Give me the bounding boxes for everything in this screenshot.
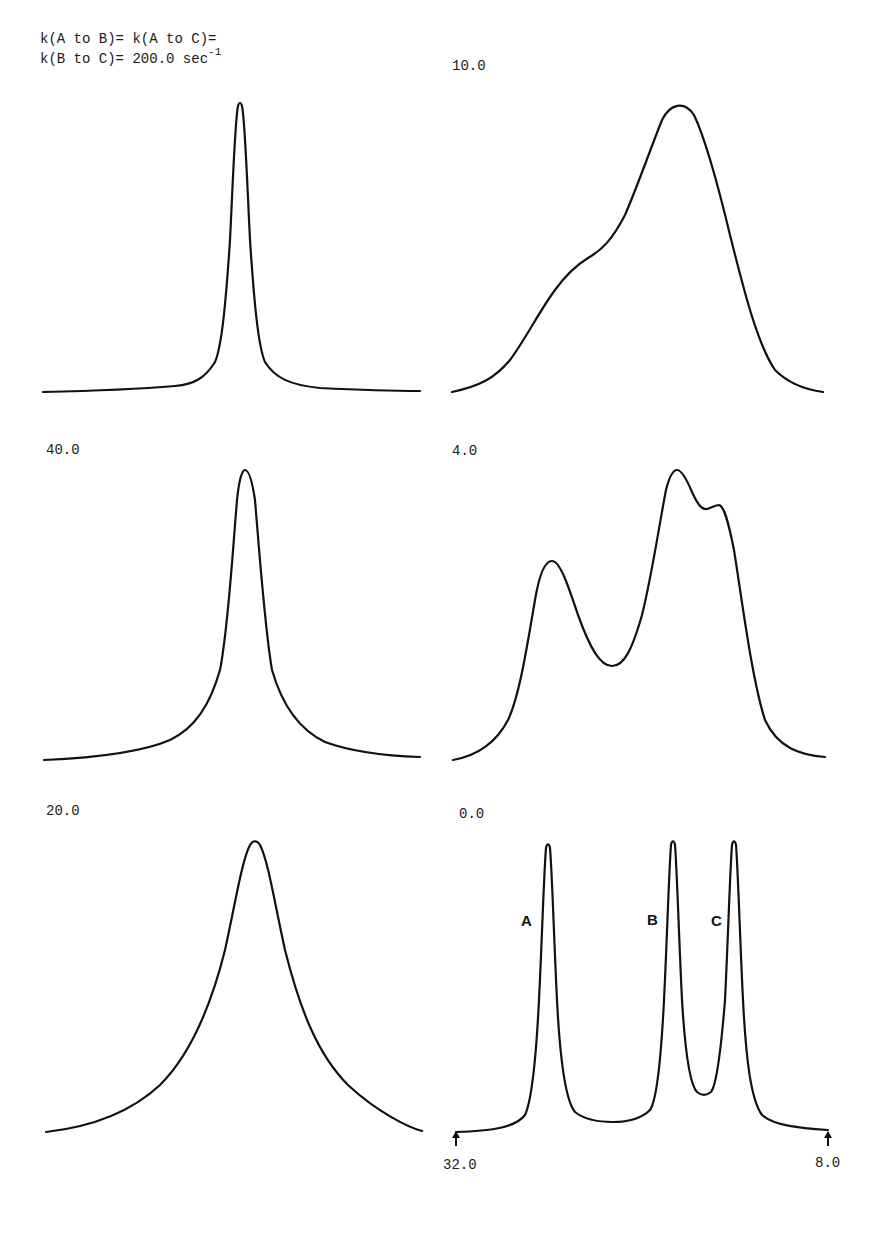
- spectrum-curve-0: [456, 841, 828, 1132]
- peak-label-b: B: [647, 911, 658, 928]
- spectrum-curve-4: [453, 470, 825, 760]
- spectrum-curve-40: [44, 470, 420, 760]
- peak-label-c: C: [711, 912, 722, 929]
- axis-right-arrow-icon: [824, 1131, 832, 1146]
- peak-label-a: A: [521, 912, 532, 929]
- spectra-plot-area: [0, 0, 889, 1233]
- spectrum-curve-200: [43, 103, 420, 392]
- axis-right-label: 8.0: [815, 1155, 840, 1171]
- spectrum-curve-20: [46, 841, 422, 1132]
- spectrum-curve-10: [452, 106, 823, 392]
- axis-left-arrow-icon: [452, 1131, 460, 1146]
- axis-left-label: 32.0: [443, 1157, 477, 1173]
